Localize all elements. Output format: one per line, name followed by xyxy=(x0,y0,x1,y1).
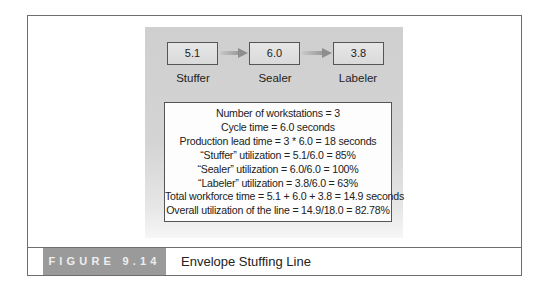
flow-arrow-icon xyxy=(302,48,332,58)
station-label-stuffer: Stuffer xyxy=(158,72,228,84)
stats-box: Number of workstations = 3 Cycle time = … xyxy=(164,102,392,222)
station-box-sealer: 6.0 xyxy=(249,42,300,65)
stat-cycle-time: Cycle time = 6.0 seconds xyxy=(165,121,391,135)
station-label-sealer: Sealer xyxy=(240,72,310,84)
station-time: 6.0 xyxy=(267,47,282,59)
stat-overall-utilization: Overall utilization of the line = 14.9/1… xyxy=(165,204,391,218)
stat-sealer-utilization: “Sealer” utilization = 6.0/6.0 = 100% xyxy=(165,163,391,177)
flow-arrow-icon xyxy=(220,48,248,58)
station-label-labeler: Labeler xyxy=(323,72,393,84)
figure-number: FIGURE 9.14 xyxy=(43,248,166,275)
stat-stuffer-utilization: “Stuffer” utilization = 5.1/6.0 = 85% xyxy=(165,149,391,163)
stat-workforce-time: Total workforce time = 5.1 + 6.0 + 3.8 =… xyxy=(165,190,391,204)
station-time: 5.1 xyxy=(185,47,200,59)
stat-labeler-utilization: “Labeler” utilization = 3.8/6.0 = 63% xyxy=(165,177,391,191)
figure-title: Envelope Stuffing Line xyxy=(181,248,311,275)
stat-workstations: Number of workstations = 3 xyxy=(165,107,391,121)
station-time: 3.8 xyxy=(351,47,366,59)
stat-lead-time: Production lead time = 3 * 6.0 = 18 seco… xyxy=(165,135,391,149)
station-box-labeler: 3.8 xyxy=(333,42,384,65)
station-box-stuffer: 5.1 xyxy=(167,42,218,65)
